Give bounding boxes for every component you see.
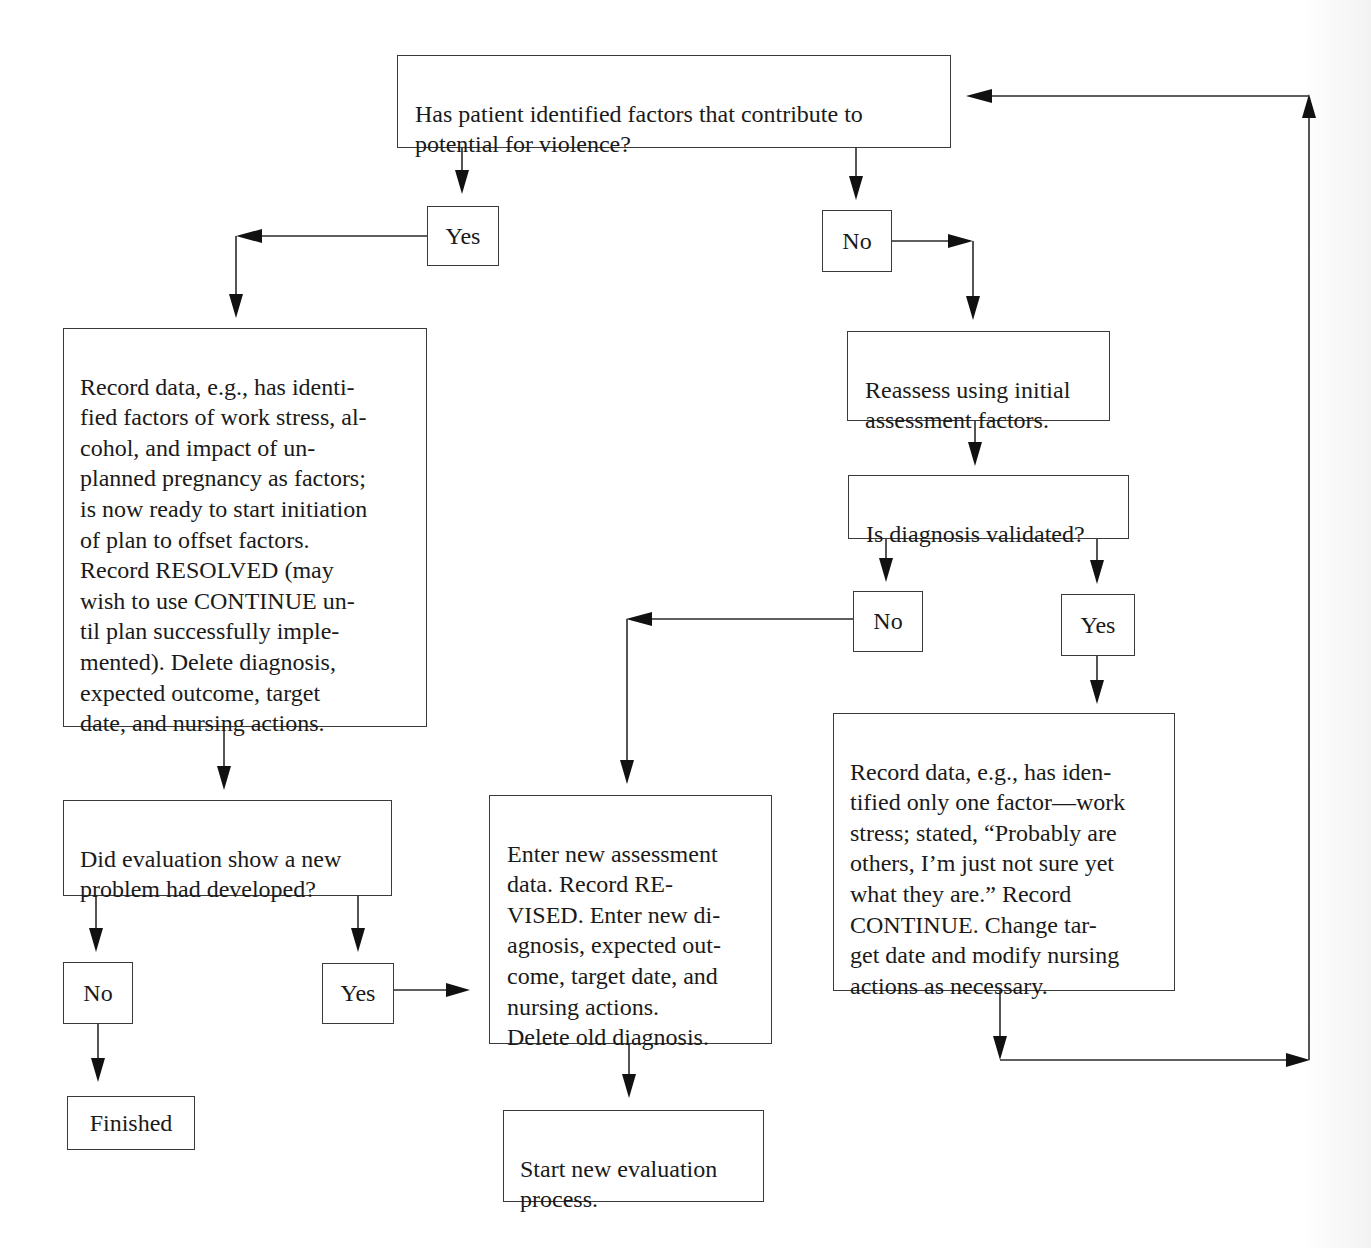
node-text: Reassess using initial assessment factor… (865, 375, 1109, 436)
node-text: Has patient identified factors that cont… (415, 99, 950, 160)
branch-yes-validated: Yes (1061, 594, 1135, 656)
node-text: Yes (341, 978, 376, 1009)
decision-new-problem: Did evaluation show a new problem had de… (63, 800, 392, 896)
node-text: Record data, e.g., has identi- fied fact… (80, 372, 426, 739)
node-text: Enter new assessment data. Record RE- VI… (507, 839, 771, 1053)
edge-no-to-reassess (891, 234, 980, 320)
node-text: Start new evaluation process. (520, 1154, 763, 1215)
terminal-finished: Finished (67, 1096, 195, 1150)
branch-yes-factors-identified: Yes (427, 206, 499, 266)
branch-no-not-validated: No (853, 591, 923, 652)
node-text: No (873, 606, 902, 637)
edge-yes-to-record-revised (394, 983, 470, 997)
edge-yes-to-record-resolved (229, 229, 428, 318)
node-text: Record data, e.g., has iden- tified only… (850, 757, 1174, 1002)
node-text: Yes (446, 221, 481, 252)
decision-diagnosis-validated: Is diagnosis validated? (848, 475, 1129, 539)
branch-no-new-problem: No (63, 962, 133, 1024)
node-text: Finished (90, 1108, 173, 1139)
edge-no-to-finished (91, 1024, 105, 1082)
edge-yes-to-record-continue (1090, 656, 1104, 704)
node-text: Is diagnosis validated? (866, 519, 1128, 550)
node-text: No (842, 226, 871, 257)
node-text: No (83, 978, 112, 1009)
edge-no-to-record-revised (620, 612, 853, 784)
node-text: Did evaluation show a new problem had de… (80, 844, 391, 905)
node-text: Yes (1081, 610, 1116, 641)
branch-yes-new-problem: Yes (322, 963, 394, 1024)
terminal-start-new-evaluation: Start new evaluation process. (503, 1110, 764, 1202)
action-record-revised: Enter new assessment data. Record RE- VI… (489, 795, 772, 1044)
decision-patient-identified-factors: Has patient identified factors that cont… (397, 55, 951, 148)
action-record-continue: Record data, e.g., has iden- tified only… (833, 713, 1175, 991)
branch-no-factors-not-identified: No (822, 210, 892, 272)
action-reassess: Reassess using initial assessment factor… (847, 331, 1110, 421)
action-record-resolved: Record data, e.g., has identi- fied fact… (63, 328, 427, 727)
